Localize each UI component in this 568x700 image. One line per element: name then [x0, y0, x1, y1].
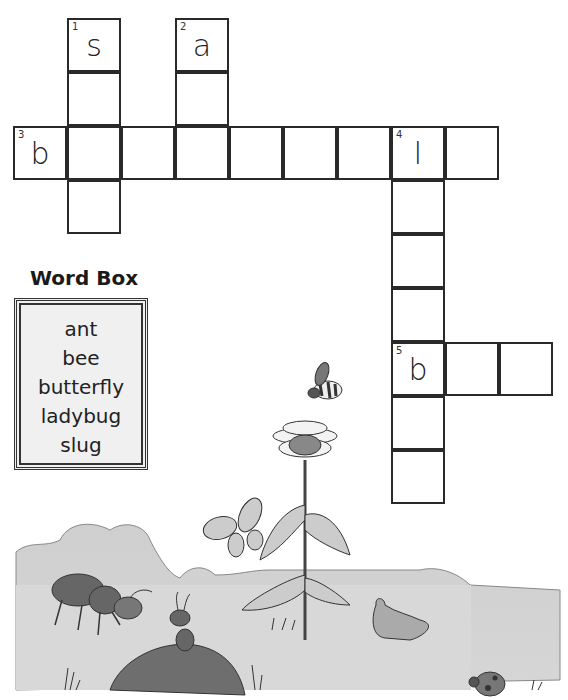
crossword-cell[interactable]: 1s	[67, 18, 121, 72]
starter-letter: b	[15, 136, 65, 171]
starter-letter: l	[393, 136, 443, 171]
crossword-cell[interactable]: 3b	[13, 126, 67, 180]
crossword-cell[interactable]	[445, 126, 499, 180]
crossword-cell[interactable]	[67, 72, 121, 126]
crossword-cell[interactable]: 2a	[175, 18, 229, 72]
crossword-cell[interactable]	[121, 126, 175, 180]
starter-letter: a	[177, 28, 227, 63]
crossword-cell[interactable]	[67, 126, 121, 180]
crossword-cell[interactable]	[283, 126, 337, 180]
starter-letter: s	[69, 28, 119, 63]
word-box-title: Word Box	[14, 266, 154, 290]
crossword-cell[interactable]	[391, 180, 445, 234]
crossword-cell[interactable]: 4l	[391, 126, 445, 180]
crossword-cell[interactable]	[337, 126, 391, 180]
crossword-cell[interactable]	[229, 126, 283, 180]
crossword-cell[interactable]	[391, 288, 445, 342]
garden-illustration	[0, 340, 568, 700]
crossword-cell[interactable]	[175, 72, 229, 126]
crossword-cell[interactable]	[67, 180, 121, 234]
butterfly-icon	[201, 494, 267, 557]
crossword-cell[interactable]	[175, 126, 229, 180]
crossword-cell[interactable]	[391, 234, 445, 288]
bee-icon	[308, 361, 342, 399]
